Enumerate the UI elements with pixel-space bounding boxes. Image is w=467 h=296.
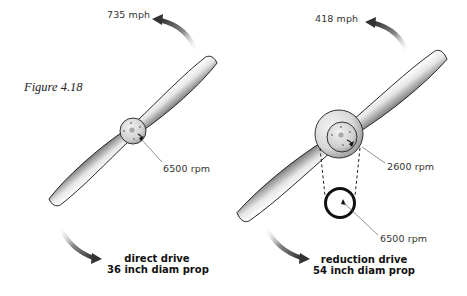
left-rpm-leader bbox=[142, 140, 162, 162]
left-top-rotation-arrow bbox=[160, 20, 196, 52]
engine-drive-gear bbox=[326, 189, 355, 218]
right-hub bbox=[327, 122, 357, 152]
left-bottom-arrowhead bbox=[91, 253, 102, 264]
right-propeller bbox=[232, 17, 451, 264]
figure-title: Figure 4.18 bbox=[24, 80, 83, 95]
right-top-arrowhead bbox=[365, 17, 376, 28]
right-caption-line2: 54 inch diam prop bbox=[312, 265, 416, 276]
left-upper-blade bbox=[133, 53, 222, 131]
right-bottom-arrowhead bbox=[299, 253, 310, 264]
left-bottom-rotation-arrow bbox=[60, 226, 94, 258]
left-propeller bbox=[45, 14, 221, 264]
left-hub-rpm-label: 6500 rpm bbox=[163, 163, 210, 174]
right-prop-rpm-label: 2600 rpm bbox=[387, 161, 434, 172]
left-tip-speed-label: 735 mph bbox=[107, 9, 150, 20]
projection-line-right bbox=[355, 148, 360, 196]
right-tip-speed-label: 418 mph bbox=[315, 13, 358, 24]
right-upper-blade bbox=[346, 48, 452, 135]
right-prop-rpm-leader bbox=[362, 147, 385, 163]
left-caption-line2: 36 inch diam prop bbox=[107, 264, 207, 275]
propeller-comparison-diagram: Figure 4.18 735 mph 6500 rpm direct driv… bbox=[0, 0, 467, 296]
left-caption: direct drive 36 inch diam prop bbox=[107, 253, 207, 275]
right-caption: reduction drive 54 inch diam prop bbox=[312, 254, 416, 276]
left-top-arrowhead bbox=[152, 14, 163, 25]
engine-rpm-leader bbox=[344, 203, 378, 235]
right-bottom-rotation-arrow bbox=[266, 226, 302, 258]
left-lower-blade bbox=[45, 130, 134, 208]
diagram-graphics bbox=[0, 0, 467, 296]
right-caption-line1: reduction drive bbox=[312, 254, 416, 265]
left-caption-line1: direct drive bbox=[107, 253, 207, 264]
right-engine-rpm-label: 6500 rpm bbox=[380, 233, 427, 244]
right-top-rotation-arrow bbox=[374, 23, 407, 53]
